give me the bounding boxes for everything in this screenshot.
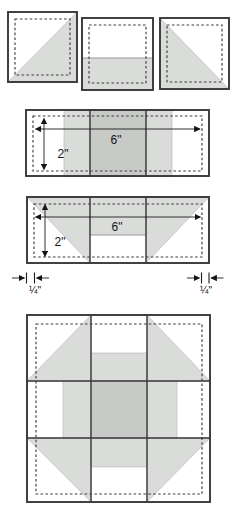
unit-row (8, 12, 229, 90)
edge-patch-right (147, 381, 177, 438)
width-label: 6" (112, 220, 123, 234)
strip-panel: 6" 2" (26, 110, 209, 176)
hst-unit-right (160, 18, 229, 89)
height-label: 2" (58, 147, 69, 161)
rectangle-unit (82, 18, 153, 90)
seam-label-right: ¼" (200, 285, 212, 296)
edge-patch-top (91, 353, 147, 381)
center-square-patch (91, 381, 147, 438)
edge-patch-left (63, 381, 91, 438)
hst-unit-left (8, 12, 77, 82)
seam-label-left: ¼" (29, 285, 41, 296)
block-panel (27, 315, 210, 502)
side-strip-right (146, 110, 172, 176)
quilt-diagram-page: 6" 2" 6" 2" ¼" (0, 0, 232, 515)
height-label: 2" (55, 235, 66, 249)
side-strip-left (64, 110, 90, 176)
seam-allowance-marker-right: ¼" (187, 273, 224, 297)
edge-patch-bottom (91, 438, 147, 467)
diagram-canvas: 6" 2" 6" 2" ¼" (0, 0, 232, 515)
seam-allowance-marker-left: ¼" (12, 273, 49, 297)
width-label: 6" (111, 133, 122, 147)
rectangle-patch (82, 58, 153, 90)
pieced-strip-panel: 6" 2" ¼" ¼" (12, 197, 224, 296)
